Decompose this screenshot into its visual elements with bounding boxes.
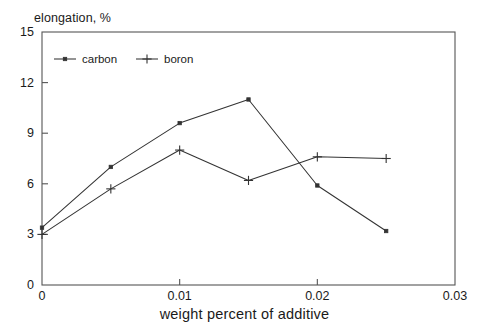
series-line-boron <box>42 150 386 234</box>
data-point-marker-boron <box>106 184 115 193</box>
data-point-marker-boron <box>244 176 253 185</box>
data-point-marker-boron <box>382 154 391 163</box>
x-axis-tick-label: 0.01 <box>167 289 191 303</box>
legend-marker-carbon <box>63 57 66 60</box>
x-axis-tick-label: 0.02 <box>305 289 329 303</box>
data-point-marker-boron <box>37 230 46 239</box>
data-point-marker-boron <box>313 152 322 161</box>
chart-figure: elongation, % weight percent of additive… <box>0 0 489 334</box>
data-point-marker-carbon <box>384 229 387 232</box>
legend-marker-boron <box>142 54 151 63</box>
legend-label-boron: boron <box>164 53 193 65</box>
x-axis-tick-label: 0.03 <box>443 289 467 303</box>
y-axis-tick-label: 6 <box>8 177 34 191</box>
x-axis-tick-label: 0 <box>39 289 46 303</box>
data-point-marker-boron <box>175 145 184 154</box>
y-axis-tick-label: 3 <box>8 227 34 241</box>
y-axis-tick-label: 15 <box>8 25 34 39</box>
y-axis-tick-label: 12 <box>8 76 34 90</box>
line-chart-plot <box>0 0 489 334</box>
y-axis-tick-label: 0 <box>8 278 34 292</box>
data-point-marker-carbon <box>40 226 43 229</box>
y-axis-tick-label: 9 <box>8 126 34 140</box>
legend-label-carbon: carbon <box>82 53 117 65</box>
data-point-marker-carbon <box>316 184 319 187</box>
plot-frame <box>42 32 455 285</box>
x-axis-title: weight percent of additive <box>0 306 489 322</box>
data-point-marker-carbon <box>178 121 181 124</box>
data-point-marker-carbon <box>247 98 250 101</box>
data-point-marker-carbon <box>109 165 112 168</box>
